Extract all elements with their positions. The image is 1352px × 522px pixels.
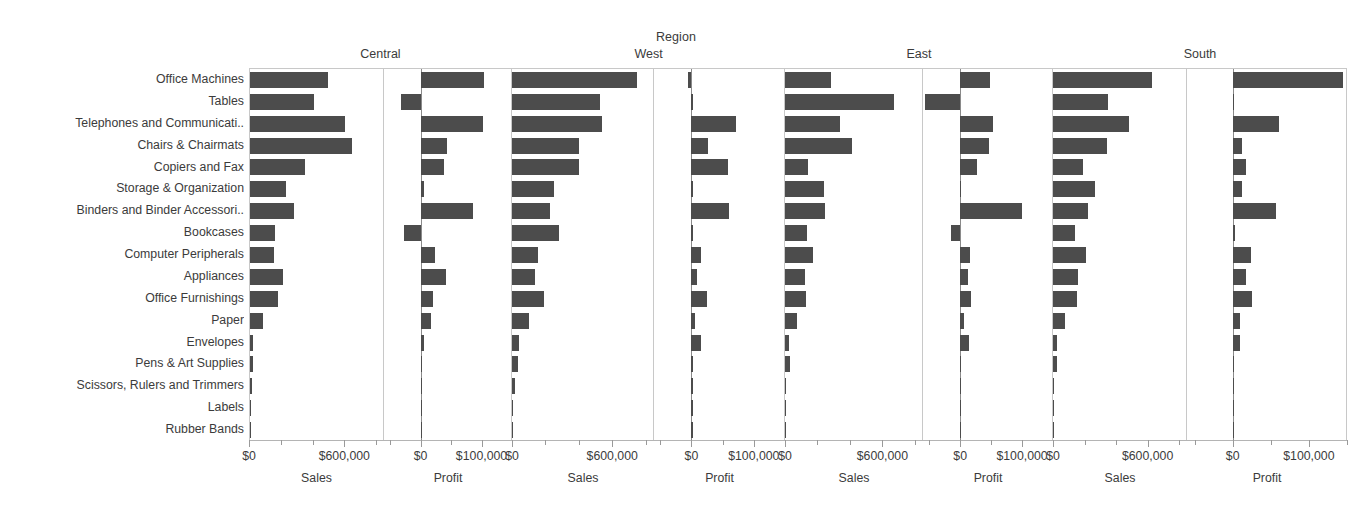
- bar[interactable]: [250, 422, 251, 438]
- bar[interactable]: [960, 313, 964, 329]
- bar[interactable]: [421, 422, 422, 438]
- bar[interactable]: [421, 203, 473, 219]
- bar[interactable]: [785, 116, 840, 132]
- bar[interactable]: [250, 203, 294, 219]
- bar[interactable]: [250, 313, 263, 329]
- bar[interactable]: [785, 400, 786, 416]
- bar[interactable]: [960, 356, 961, 372]
- bar[interactable]: [785, 225, 807, 241]
- bar[interactable]: [421, 291, 434, 307]
- bar[interactable]: [1233, 291, 1252, 307]
- bar[interactable]: [250, 72, 328, 88]
- bar[interactable]: [691, 225, 692, 241]
- bar[interactable]: [960, 138, 988, 154]
- bar[interactable]: [1233, 378, 1234, 394]
- bar[interactable]: [785, 247, 813, 263]
- bar[interactable]: [960, 247, 970, 263]
- bar[interactable]: [960, 378, 961, 394]
- bar[interactable]: [691, 269, 697, 285]
- bar[interactable]: [691, 116, 736, 132]
- bar[interactable]: [250, 269, 283, 285]
- bar[interactable]: [512, 203, 550, 219]
- bar[interactable]: [421, 247, 435, 263]
- bar[interactable]: [250, 116, 345, 132]
- bar[interactable]: [1053, 400, 1054, 416]
- bar[interactable]: [960, 159, 977, 175]
- bar[interactable]: [512, 159, 579, 175]
- bar[interactable]: [1053, 291, 1077, 307]
- bar[interactable]: [1233, 116, 1279, 132]
- bar[interactable]: [1233, 94, 1234, 110]
- bar[interactable]: [1233, 225, 1235, 241]
- bar[interactable]: [512, 291, 544, 307]
- bar[interactable]: [512, 116, 602, 132]
- bar[interactable]: [250, 400, 251, 416]
- bar[interactable]: [785, 291, 806, 307]
- bar[interactable]: [250, 159, 305, 175]
- bar[interactable]: [421, 313, 431, 329]
- bar[interactable]: [512, 72, 637, 88]
- bar[interactable]: [691, 356, 692, 372]
- bar[interactable]: [785, 138, 852, 154]
- bar[interactable]: [250, 138, 352, 154]
- bar[interactable]: [421, 378, 422, 394]
- bar[interactable]: [512, 247, 538, 263]
- bar[interactable]: [512, 181, 554, 197]
- bar[interactable]: [785, 313, 797, 329]
- bar[interactable]: [785, 159, 808, 175]
- bar[interactable]: [1233, 313, 1240, 329]
- bar[interactable]: [691, 335, 701, 351]
- bar[interactable]: [1053, 116, 1129, 132]
- bar[interactable]: [1233, 400, 1234, 416]
- bar[interactable]: [250, 225, 275, 241]
- bar[interactable]: [512, 269, 535, 285]
- bar[interactable]: [691, 247, 701, 263]
- bar[interactable]: [1053, 422, 1054, 438]
- bar[interactable]: [250, 356, 253, 372]
- bar[interactable]: [960, 72, 990, 88]
- bar[interactable]: [960, 291, 971, 307]
- bar[interactable]: [691, 203, 729, 219]
- bar[interactable]: [250, 335, 253, 351]
- bar[interactable]: [421, 138, 448, 154]
- bar[interactable]: [1053, 72, 1152, 88]
- bar[interactable]: [512, 400, 513, 416]
- bar[interactable]: [250, 378, 252, 394]
- bar[interactable]: [1053, 225, 1075, 241]
- bar[interactable]: [960, 400, 961, 416]
- bar[interactable]: [925, 94, 960, 110]
- bar[interactable]: [1233, 247, 1251, 263]
- bar[interactable]: [785, 181, 824, 197]
- bar[interactable]: [960, 422, 961, 438]
- bar[interactable]: [421, 356, 422, 372]
- bar[interactable]: [785, 422, 786, 438]
- bar[interactable]: [250, 247, 274, 263]
- bar[interactable]: [1053, 356, 1057, 372]
- bar[interactable]: [1233, 138, 1242, 154]
- bar[interactable]: [785, 94, 894, 110]
- bar[interactable]: [1053, 181, 1095, 197]
- bar[interactable]: [512, 313, 529, 329]
- bar[interactable]: [1233, 203, 1276, 219]
- bar[interactable]: [1233, 335, 1241, 351]
- bar[interactable]: [691, 400, 692, 416]
- bar[interactable]: [1053, 94, 1108, 110]
- bar[interactable]: [421, 72, 484, 88]
- bar[interactable]: [1053, 203, 1088, 219]
- bar[interactable]: [421, 159, 444, 175]
- bar[interactable]: [1053, 313, 1065, 329]
- bar[interactable]: [512, 225, 559, 241]
- bar[interactable]: [785, 203, 825, 219]
- bar[interactable]: [1053, 378, 1054, 394]
- bar[interactable]: [1233, 159, 1246, 175]
- bar[interactable]: [688, 72, 691, 88]
- bar[interactable]: [512, 356, 518, 372]
- bar[interactable]: [691, 94, 692, 110]
- bar[interactable]: [421, 116, 484, 132]
- bar[interactable]: [512, 138, 579, 154]
- bar[interactable]: [421, 335, 425, 351]
- bar[interactable]: [960, 335, 969, 351]
- bar[interactable]: [512, 378, 515, 394]
- bar[interactable]: [691, 378, 692, 394]
- bar[interactable]: [691, 138, 707, 154]
